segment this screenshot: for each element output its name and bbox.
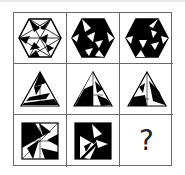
square-figure-2 <box>74 122 112 160</box>
cell-r3-c2 <box>67 115 120 167</box>
triangle-figure-2 <box>73 71 113 107</box>
cell-r3-c1 <box>14 115 67 167</box>
triangle-figure-1 <box>20 71 60 107</box>
cell-r1-c1 <box>14 13 67 64</box>
hexagon-figure-1 <box>18 18 62 58</box>
cell-r2-c3 <box>120 64 173 115</box>
top-border <box>0 0 185 2</box>
cell-r3-c3-answer: ? <box>120 115 173 167</box>
question-mark: ? <box>139 127 154 155</box>
triangle-figure-3 <box>127 71 167 107</box>
cell-r2-c1 <box>14 64 67 115</box>
hexagon-figure-2 <box>71 18 115 58</box>
cell-r1-c3 <box>120 13 173 64</box>
cell-r2-c2 <box>67 64 120 115</box>
cell-r1-c2 <box>67 13 120 64</box>
hexagon-figure-3 <box>125 18 169 58</box>
square-figure-1 <box>21 122 59 160</box>
puzzle-grid: ? <box>13 12 172 166</box>
